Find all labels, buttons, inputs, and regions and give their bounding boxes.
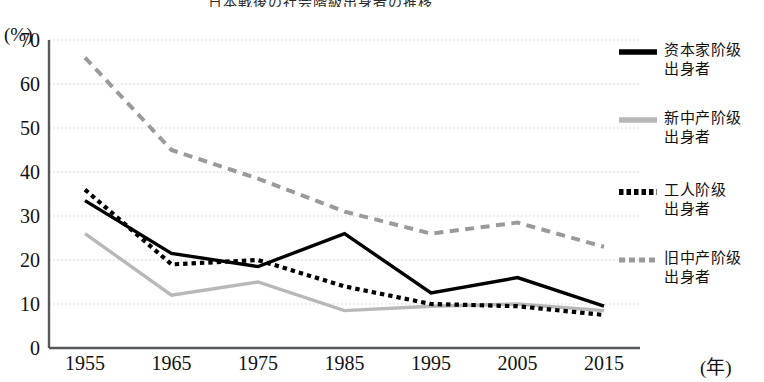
legend-swatch-icon (618, 182, 658, 202)
series-line (85, 190, 604, 315)
legend-label: 工人阶级 出身者 (664, 180, 726, 218)
gridlines (49, 40, 640, 304)
legend-item[interactable]: 工人阶级 出身者 (618, 180, 726, 218)
legend-label: 资本家阶级 出身者 (664, 40, 742, 78)
legend-swatch-icon (618, 110, 658, 130)
legend-item[interactable]: 旧中产阶级 出身者 (618, 248, 742, 286)
axis-lines (49, 40, 640, 348)
legend-swatch-icon (618, 42, 658, 62)
legend-item[interactable]: 新中产阶级 出身者 (618, 108, 742, 146)
legend-label: 新中产阶级 出身者 (664, 108, 742, 146)
data-series (85, 58, 604, 315)
line-chart: 日本戦後の社会階級出身者の推移 (%) 010203040506070 1955… (0, 0, 764, 382)
series-line (85, 234, 604, 311)
legend-item[interactable]: 资本家阶级 出身者 (618, 40, 742, 78)
legend-label: 旧中产阶级 出身者 (664, 248, 742, 286)
series-line (85, 58, 604, 247)
legend-swatch-icon (618, 250, 658, 270)
